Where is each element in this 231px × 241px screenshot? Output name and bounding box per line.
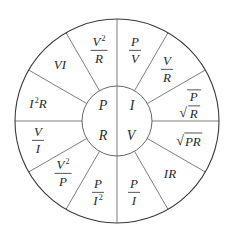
- denominator: R: [190, 106, 198, 121]
- exponent: 2: [65, 157, 69, 166]
- radical-icon: √: [179, 107, 187, 121]
- numerator: V: [161, 54, 173, 70]
- denominator: R: [95, 51, 103, 66]
- formula-sqrt-p-over-r: √ PR: [179, 89, 201, 120]
- inner-label-resistance: R: [99, 129, 108, 143]
- formula-p-over-i-squared: PI2: [92, 177, 104, 207]
- formula-sqrt-pr: √ PR: [176, 133, 202, 148]
- formula-v-squared-over-p: V2P: [55, 158, 72, 188]
- formula-vi: VI: [54, 58, 66, 71]
- numerator: P: [128, 177, 140, 193]
- formula-p-over-v: PV: [129, 35, 141, 65]
- formula-v-over-i: VI: [32, 125, 44, 155]
- denominator: I: [36, 141, 40, 156]
- numerator: P: [129, 35, 141, 51]
- formula-v-over-r: VR: [161, 54, 173, 84]
- numerator: V2: [55, 158, 72, 174]
- numerator: P: [188, 90, 200, 106]
- base: I: [93, 193, 97, 208]
- radicand: PR: [184, 133, 202, 148]
- inner-label-power: P: [99, 99, 108, 113]
- numerator: V: [32, 125, 44, 141]
- formula-ir: IR: [164, 167, 176, 180]
- base: I: [29, 96, 33, 111]
- formula-p-over-i: PI: [128, 177, 140, 207]
- denominator: I2: [93, 193, 102, 208]
- numerator: V2: [91, 35, 108, 51]
- radical-icon: √: [176, 134, 184, 148]
- formula-v-squared-over-r: V2R: [91, 35, 108, 65]
- base: V: [57, 157, 65, 172]
- inner-label-voltage: V: [127, 129, 136, 143]
- denominator: R: [163, 70, 171, 85]
- exponent: 2: [101, 34, 105, 43]
- numerator: P: [92, 177, 104, 193]
- denominator: P: [59, 174, 67, 189]
- base: V: [93, 34, 101, 49]
- denominator: V: [131, 51, 139, 66]
- denominator: I: [132, 193, 136, 208]
- inner-label-current: I: [130, 99, 135, 113]
- exponent: 2: [99, 193, 103, 202]
- tail: R: [39, 96, 47, 111]
- formula-i-squared-r: I2R: [29, 97, 46, 110]
